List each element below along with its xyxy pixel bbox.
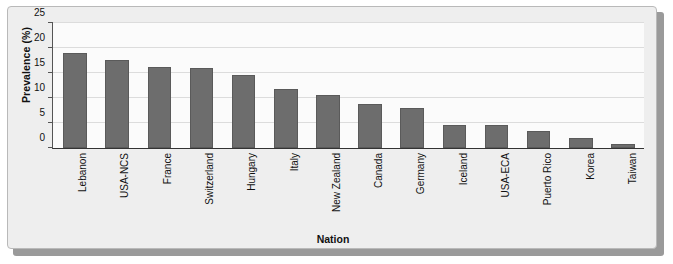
bar[interactable] (485, 125, 509, 149)
x-axis-tick-labels: LebanonUSA-NCSFranceSwitzerlandHungaryIt… (53, 151, 645, 227)
y-tick-label: 0 (39, 132, 45, 143)
x-tick-label: Iceland (459, 153, 469, 185)
bar-slot (265, 23, 307, 148)
x-label-slot: Puerto Rico (518, 151, 560, 227)
plot-area: 0510152025 (52, 23, 644, 149)
x-tick-label: Switzerland (205, 153, 215, 205)
bar-slot (560, 23, 602, 148)
x-label-slot: Canada (349, 151, 391, 227)
x-label-slot: France (138, 151, 180, 227)
chart-panel: Prevalence (%) 0510152025 LebanonUSA-NCS… (7, 6, 657, 249)
x-tick-label: New Zealand (332, 153, 342, 212)
bar-series (54, 23, 644, 148)
x-tick-label: Italy (290, 153, 300, 171)
bar[interactable] (63, 53, 87, 149)
y-tick-label: 10 (34, 82, 45, 93)
x-label-slot: New Zealand (307, 151, 349, 227)
bar-slot (349, 23, 391, 148)
bar[interactable] (274, 89, 298, 149)
bar[interactable] (400, 108, 424, 148)
bar[interactable] (316, 95, 340, 149)
bar-slot (223, 23, 265, 148)
bar-slot (475, 23, 517, 148)
y-tick-mark (48, 97, 53, 98)
x-label-slot: Italy (264, 151, 306, 227)
y-tick-label: 5 (39, 107, 45, 118)
bar[interactable] (611, 144, 635, 148)
plot-wrapper: 0510152025 (52, 23, 644, 149)
x-label-slot: Iceland (434, 151, 476, 227)
bar-slot (180, 23, 222, 148)
bar-slot (391, 23, 433, 148)
bar-slot (96, 23, 138, 148)
bar-slot (518, 23, 560, 148)
x-label-slot: Taiwan (603, 151, 645, 227)
bar-slot (602, 23, 644, 148)
bar[interactable] (527, 131, 551, 149)
x-tick-label: Korea (586, 153, 596, 180)
x-tick-label: USA-ECA (501, 153, 511, 197)
x-label-slot: Lebanon (53, 151, 95, 227)
y-axis-title: Prevalence (%) (20, 5, 32, 125)
x-tick-label: Canada (374, 153, 384, 188)
y-tick-mark (48, 147, 53, 148)
bar[interactable] (190, 68, 214, 149)
y-tick-label: 20 (34, 32, 45, 43)
x-label-slot: USA-NCS (95, 151, 137, 227)
x-label-slot: Germany (391, 151, 433, 227)
x-axis-title: Nation (8, 233, 658, 245)
x-tick-label: France (163, 153, 173, 184)
x-tick-label: Lebanon (78, 153, 88, 192)
x-label-slot: Korea (560, 151, 602, 227)
y-tick-mark (48, 72, 53, 73)
x-tick-label: Hungary (247, 153, 257, 191)
x-tick-label: Puerto Rico (543, 153, 553, 205)
y-tick-mark (48, 122, 53, 123)
bar[interactable] (148, 67, 172, 148)
x-label-slot: USA-ECA (476, 151, 518, 227)
y-tick-mark (48, 47, 53, 48)
bar[interactable] (232, 75, 256, 148)
x-tick-label: Germany (416, 153, 426, 194)
y-tick-mark (48, 22, 53, 23)
bar-slot (54, 23, 96, 148)
bar[interactable] (569, 138, 593, 149)
bar[interactable] (358, 104, 382, 148)
bar-slot (433, 23, 475, 148)
bar[interactable] (105, 60, 129, 148)
x-label-slot: Hungary (222, 151, 264, 227)
y-tick-label: 15 (34, 57, 45, 68)
x-label-slot: Switzerland (180, 151, 222, 227)
bar-slot (307, 23, 349, 148)
y-tick-label: 25 (34, 7, 45, 18)
bar[interactable] (443, 125, 467, 149)
chart-figure: Prevalence (%) 0510152025 LebanonUSA-NCS… (0, 0, 673, 264)
x-tick-label: USA-NCS (120, 153, 130, 198)
bar-slot (138, 23, 180, 148)
x-tick-label: Taiwan (628, 153, 638, 184)
